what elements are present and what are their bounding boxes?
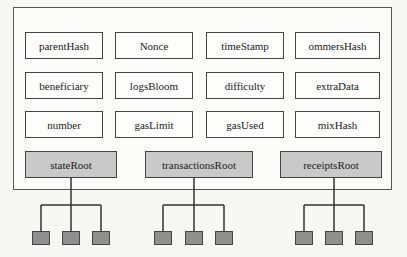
transactions-leaf-node [154,231,172,245]
receipts-leaf-node [325,231,343,245]
state-leaf-node [32,231,50,245]
tree-connectors [0,0,407,257]
transactions-leaf-node [215,231,233,245]
transactions-leaf-node [185,231,203,245]
state-leaf-node [92,231,110,245]
state-leaf-node [62,231,80,245]
receipts-leaf-node [355,231,373,245]
receipts-leaf-node [295,231,313,245]
